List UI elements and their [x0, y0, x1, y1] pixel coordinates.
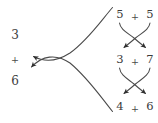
- crossing-2-left-to-right-path: [120, 68, 146, 94]
- diagram-canvas: 3 + 6 5 + 5 3 + 7 4 + 6: [0, 0, 158, 123]
- upper-long-arrow-path: [34, 8, 113, 61]
- row-1-right-term: 5: [144, 9, 156, 20]
- row-2-left-term: 3: [114, 54, 126, 65]
- result-operator: +: [8, 54, 22, 65]
- crossing-2-right-to-left-path: [124, 68, 150, 94]
- result-bottom-addend: 6: [8, 76, 22, 87]
- row-2-right-term: 7: [144, 54, 156, 65]
- lower-long-arrow-path: [32, 57, 113, 112]
- result-top-addend: 3: [8, 30, 22, 41]
- row-3-left-term: 4: [114, 101, 126, 112]
- row-1-operator: +: [129, 11, 141, 22]
- row-1-left-term: 5: [114, 9, 126, 20]
- row-3-operator: +: [129, 103, 141, 114]
- row-2-operator: +: [129, 56, 141, 67]
- row-3-right-term: 6: [144, 101, 156, 112]
- crossing-1-left-to-right-path: [120, 23, 146, 48]
- crossing-1-right-to-left-path: [124, 23, 150, 48]
